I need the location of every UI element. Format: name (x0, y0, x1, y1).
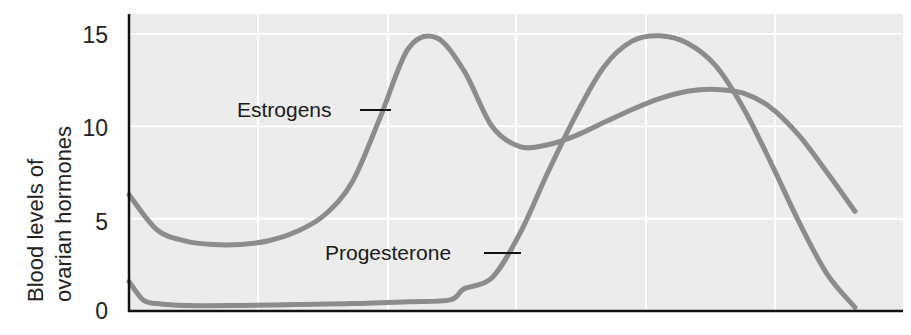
estrogens-label: Estrogens (237, 98, 332, 121)
chart-plot: Estrogens Progesterone (0, 0, 911, 335)
progesterone-label: Progesterone (325, 241, 451, 264)
